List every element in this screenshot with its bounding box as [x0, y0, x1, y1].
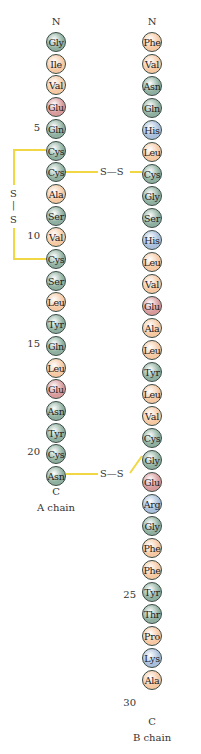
- b-residue-10: His: [142, 230, 162, 250]
- ss-a6-a11-s2: S: [10, 214, 17, 225]
- b-residue-6: Leu: [142, 142, 162, 162]
- a-residue-19: Tyr: [46, 423, 66, 443]
- b-residue-1: Phe: [142, 32, 162, 52]
- disulfide-bonds: [0, 0, 201, 754]
- a-residue-9: Ser: [46, 206, 66, 226]
- ss-a7-b7-label: S—S: [100, 166, 124, 177]
- b-residue-16: Tyr: [142, 362, 162, 382]
- a-residue-6: Cys: [46, 141, 66, 161]
- b-residue-8: Gly: [142, 186, 162, 206]
- b-residue-30: Ala: [142, 670, 162, 690]
- b-residue-26: Tyr: [142, 582, 162, 602]
- a-c-terminus: C: [46, 486, 66, 497]
- insulin-diagram: N N GlyIleValGluGlnCysCysAlaSerValCysSer…: [0, 0, 201, 754]
- b-residue-18: Val: [142, 406, 162, 426]
- b-residue-25: Phe: [142, 560, 162, 580]
- a-residue-21: Asn: [46, 466, 66, 486]
- b-c-terminus: C: [142, 716, 162, 727]
- a-index-5: 5: [20, 122, 40, 133]
- a-residue-1: Gly: [46, 32, 66, 52]
- b-residue-9: Ser: [142, 208, 162, 228]
- b-residue-13: Glu: [142, 296, 162, 316]
- b-n-terminus: N: [142, 16, 162, 27]
- b-residue-23: Gly: [142, 516, 162, 536]
- a-index-15: 15: [20, 338, 40, 349]
- a-residue-15: Gln: [46, 336, 66, 356]
- b-residue-19: Cys: [142, 428, 162, 448]
- bond-a6-a11: [14, 150, 46, 185]
- ss-a6-a11-sep: |: [12, 200, 15, 210]
- b-residue-24: Phe: [142, 538, 162, 558]
- b-residue-28: Pro: [142, 626, 162, 646]
- b-residue-7: Cys: [142, 164, 162, 184]
- b-index-25: 25: [116, 589, 136, 600]
- a-chain-label: A chain: [16, 502, 96, 513]
- a-residue-12: Ser: [46, 271, 66, 291]
- a-residue-18: Asn: [46, 401, 66, 421]
- b-residue-21: Glu: [142, 472, 162, 492]
- b-residue-15: Leu: [142, 340, 162, 360]
- a-index-20: 20: [20, 446, 40, 457]
- b-residue-17: Leu: [142, 384, 162, 404]
- a-index-10: 10: [20, 230, 40, 241]
- b-residue-12: Val: [142, 274, 162, 294]
- bond-a20-b19-right: [130, 456, 142, 473]
- b-index-30: 30: [116, 697, 136, 708]
- b-residue-29: Lys: [142, 648, 162, 668]
- b-residue-27: Thr: [142, 604, 162, 624]
- a-residue-14: Tyr: [46, 314, 66, 334]
- b-residue-3: Asn: [142, 76, 162, 96]
- ss-a20-b19-label: S—S: [100, 468, 124, 479]
- a-residue-16: Leu: [46, 358, 66, 378]
- a-residue-5: Gln: [46, 119, 66, 139]
- a-residue-11: Cys: [46, 249, 66, 269]
- b-residue-14: Ala: [142, 318, 162, 338]
- b-residue-22: Arg: [142, 494, 162, 514]
- a-residue-4: Glu: [46, 97, 66, 117]
- b-chain-label: B chain: [112, 732, 192, 743]
- b-residue-5: His: [142, 120, 162, 140]
- a-n-terminus: N: [46, 16, 66, 27]
- b-residue-11: Leu: [142, 252, 162, 272]
- b-residue-2: Val: [142, 54, 162, 74]
- b-residue-20: Gly: [142, 450, 162, 470]
- a-residue-8: Ala: [46, 184, 66, 204]
- ss-a6-a11-s1: S: [10, 188, 17, 199]
- b-residue-4: Gln: [142, 98, 162, 118]
- a-residue-2: Ile: [46, 54, 66, 74]
